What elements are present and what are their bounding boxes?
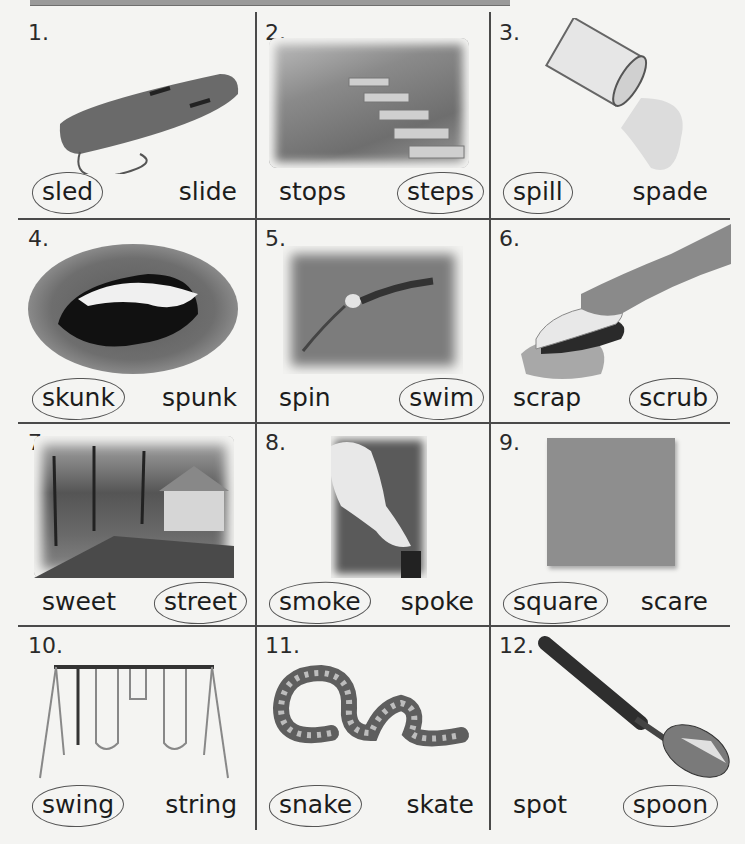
word-choice-spin[interactable]: spin xyxy=(275,382,335,414)
item-3: 3. spill spade xyxy=(491,14,724,218)
sled-picture xyxy=(40,54,240,174)
item-4: 4. skunk spunk xyxy=(20,220,253,424)
item-number: 6. xyxy=(499,226,520,251)
word-choice-steps[interactable]: steps xyxy=(403,176,478,208)
item-number: 1. xyxy=(28,20,49,45)
scrub-picture xyxy=(521,224,731,384)
word-choice-scrub[interactable]: scrub xyxy=(635,382,712,414)
word-choice-stops[interactable]: stops xyxy=(275,176,350,208)
square-picture xyxy=(547,438,675,566)
item-7: 7. sweet street xyxy=(20,424,253,628)
word-choice-spoke[interactable]: spoke xyxy=(397,586,478,618)
word-choice-scare[interactable]: scare xyxy=(637,586,712,618)
item-number: 11. xyxy=(265,633,300,658)
word-choice-street[interactable]: street xyxy=(160,586,241,618)
item-2: 2. stops steps xyxy=(257,14,490,218)
word-choice-sweet[interactable]: sweet xyxy=(38,586,120,618)
item-number: 12. xyxy=(499,633,534,658)
item-number: 3. xyxy=(499,20,520,45)
word-choice-spoon[interactable]: spoon xyxy=(629,789,712,821)
word-choice-smoke[interactable]: smoke xyxy=(275,586,365,618)
word-choice-sled[interactable]: sled xyxy=(38,176,97,208)
street-picture xyxy=(34,436,234,578)
word-choice-spade[interactable]: spade xyxy=(629,176,712,208)
item-number: 8. xyxy=(265,430,286,455)
word-choice-skate[interactable]: skate xyxy=(402,789,478,821)
word-choice-slide[interactable]: slide xyxy=(175,176,241,208)
word-choice-spunk[interactable]: spunk xyxy=(158,382,241,414)
skunk-picture xyxy=(28,244,238,374)
swing-picture xyxy=(34,663,234,783)
spoon-picture xyxy=(531,633,731,783)
item-number: 9. xyxy=(499,430,520,455)
word-choice-swing[interactable]: swing xyxy=(38,789,118,821)
word-choice-skunk[interactable]: skunk xyxy=(38,382,119,414)
word-choice-spill[interactable]: spill xyxy=(509,176,567,208)
item-12: 12. spot spoon xyxy=(491,627,724,831)
smoke-picture xyxy=(331,436,427,578)
word-choice-square[interactable]: square xyxy=(509,586,602,618)
item-number: 10. xyxy=(28,633,63,658)
item-5: 5. spin swim xyxy=(257,220,490,424)
steps-picture xyxy=(269,38,469,168)
spill-picture xyxy=(531,18,701,188)
item-11: 11. snake skate xyxy=(257,627,490,831)
word-choice-string[interactable]: string xyxy=(161,789,241,821)
item-9: 9. square scare xyxy=(491,424,724,628)
item-8: 8. smoke spoke xyxy=(257,424,490,628)
item-6: 6. scrap scrub xyxy=(491,220,724,424)
word-choice-swim[interactable]: swim xyxy=(405,382,478,414)
swim-picture xyxy=(283,246,463,374)
item-10: 10. swing string xyxy=(20,627,253,831)
item-1: 1. sled slide xyxy=(20,14,253,218)
word-choice-scrap[interactable]: scrap xyxy=(509,382,585,414)
word-choice-snake[interactable]: snake xyxy=(275,789,356,821)
top-bar xyxy=(30,0,510,6)
word-choice-spot[interactable]: spot xyxy=(509,789,571,821)
snake-picture xyxy=(271,663,471,753)
